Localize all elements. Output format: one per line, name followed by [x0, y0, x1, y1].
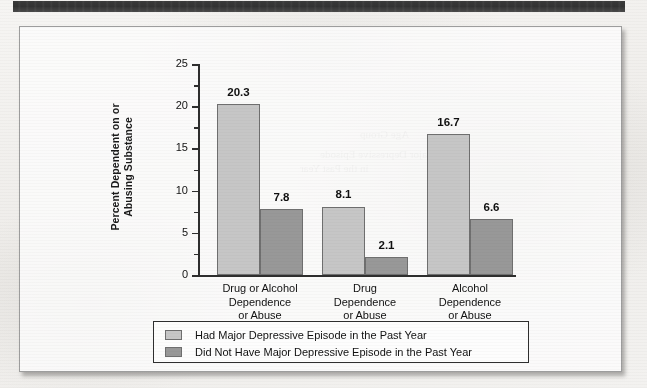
y-tick-minor-7_5 — [194, 212, 199, 214]
y-tick-label-10: 10 — [144, 184, 188, 196]
bar-g1-no-mde[interactable] — [260, 209, 303, 275]
y-tick-label-20: 20 — [144, 99, 188, 111]
x-category-label-2: Drug Dependence or Abuse — [305, 282, 425, 323]
y-tick-minor-12_5 — [194, 170, 199, 172]
legend-label-had-mde: Had Major Depressive Episode in the Past… — [195, 329, 427, 341]
x-category-label-3: Alcohol Dependence or Abuse — [410, 282, 530, 323]
legend-swatch-icon-no-mde — [165, 347, 182, 357]
x-category-label-1-line2: Dependence — [200, 296, 320, 310]
bar-value-g2-no-mde: 2.1 — [360, 239, 413, 251]
legend-item-had-mde[interactable]: Had Major Depressive Episode in the Past… — [154, 326, 528, 343]
y-tick-25 — [192, 64, 199, 66]
bar-g1-had-mde[interactable] — [217, 104, 260, 275]
bar-g2-no-mde[interactable] — [365, 257, 408, 275]
legend-swatch-icon-had-mde — [165, 330, 182, 340]
legend-label-no-mde: Did Not Have Major Depressive Episode in… — [195, 346, 472, 358]
bar-value-g3-had-mde: 16.7 — [422, 116, 475, 128]
y-tick-minor-17_5 — [194, 127, 199, 129]
y-tick-10 — [192, 191, 199, 193]
x-category-label-3-line2: Dependence — [410, 296, 530, 310]
y-tick-0 — [192, 275, 199, 277]
y-tick-15 — [192, 148, 199, 150]
bar-g3-had-mde[interactable] — [427, 134, 470, 275]
chart-legend: Had Major Depressive Episode in the Past… — [153, 321, 529, 363]
y-tick-label-5: 5 — [144, 226, 188, 238]
y-tick-label-0: 0 — [144, 268, 188, 280]
y-tick-5 — [192, 233, 199, 235]
y-axis-title-line2: Abusing Substance — [122, 103, 135, 230]
bar-g3-no-mde[interactable] — [470, 219, 513, 275]
bar-value-g3-no-mde: 6.6 — [465, 201, 518, 213]
x-category-label-1: Drug or Alcohol Dependence or Abuse — [200, 282, 320, 323]
x-category-label-2-line1: Drug — [305, 282, 425, 296]
chart-plot-area: Percent Dependent on or Abusing Substanc… — [20, 27, 623, 373]
y-axis-title: Percent Dependent on or Abusing Substanc… — [104, 67, 140, 267]
y-tick-minor-22_5 — [194, 85, 199, 87]
y-tick-minor-2_5 — [194, 254, 199, 256]
y-tick-20 — [192, 106, 199, 108]
x-category-label-2-line2: Dependence — [305, 296, 425, 310]
legend-item-no-mde[interactable]: Did Not Have Major Depressive Episode in… — [154, 343, 528, 360]
y-tick-label-15: 15 — [144, 141, 188, 153]
y-axis-title-line1: Percent Dependent on or — [109, 103, 122, 230]
bar-value-g2-had-mde: 8.1 — [317, 188, 370, 200]
page-header-strip — [13, 1, 625, 12]
x-axis-line — [198, 275, 516, 277]
x-category-label-1-line1: Drug or Alcohol — [200, 282, 320, 296]
y-tick-label-25: 25 — [144, 57, 188, 69]
chart-card: Percent Dependent on or Abusing Substanc… — [19, 26, 622, 372]
bar-g2-had-mde[interactable] — [322, 207, 365, 275]
x-category-label-3-line1: Alcohol — [410, 282, 530, 296]
bar-value-g1-had-mde: 20.3 — [212, 86, 265, 98]
bar-value-g1-no-mde: 7.8 — [255, 191, 308, 203]
